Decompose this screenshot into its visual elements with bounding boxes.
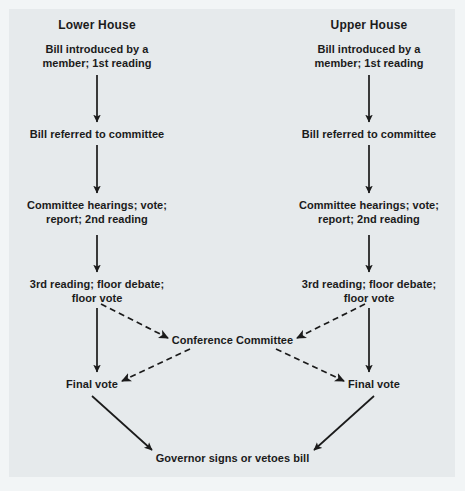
- node-governor-signs-or-vetoes: Governor signs or vetoes bill: [147, 451, 318, 465]
- connector-layer: [0, 0, 465, 491]
- node-upper-third-reading: 3rd reading; floor debate; floor vote: [284, 277, 454, 305]
- node-lower-committee-hearings: Committee hearings; vote; report; 2nd re…: [12, 198, 182, 226]
- node-conference-committee: Conference Committee: [157, 333, 308, 347]
- node-lower-bill-referred: Bill referred to committee: [12, 127, 182, 141]
- node-upper-committee-hearings: Committee hearings; vote; report; 2nd re…: [284, 198, 454, 226]
- node-upper-bill-introduced: Bill introduced by a member; 1st reading: [289, 42, 449, 70]
- node-lower-bill-introduced: Bill introduced by a member; 1st reading: [17, 42, 177, 70]
- column-header-upper-house: Upper House: [299, 18, 439, 33]
- node-upper-bill-referred: Bill referred to committee: [284, 127, 454, 141]
- node-lower-third-reading: 3rd reading; floor debate; floor vote: [12, 277, 182, 305]
- edge-lower-final-to-governor: [92, 396, 152, 450]
- node-upper-final-vote: Final vote: [324, 377, 424, 391]
- flowchart-diagram: Lower House Upper House Bill introduced …: [0, 0, 465, 491]
- edge-upper-final-to-governor: [314, 396, 374, 450]
- column-header-lower-house: Lower House: [27, 18, 167, 33]
- node-lower-final-vote: Final vote: [42, 377, 142, 391]
